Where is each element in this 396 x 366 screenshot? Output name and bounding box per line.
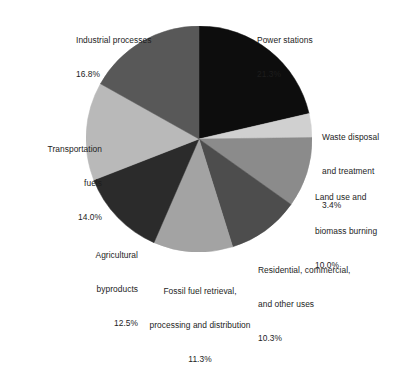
slice-label-percent: 14.0%	[6, 212, 102, 223]
slice-label-percent: 11.3%	[121, 354, 279, 365]
slice-label-agricultural-byproducts: Agricultural byproducts 12.5%	[30, 228, 138, 351]
slice-label-name-line1: Land use and	[315, 192, 396, 203]
slice-label-percent: 21.3%	[257, 69, 387, 80]
slice-label-percent: 12.5%	[30, 318, 138, 329]
slice-label-transportation-fuels: Transportation fuels 14.0%	[6, 122, 102, 245]
slice-label-name-line1: Waste disposal	[322, 132, 396, 143]
slice-label-name-line2: processing and distribution	[121, 320, 279, 331]
slice-label-percent: 16.8%	[76, 69, 216, 80]
slice-label-name: Industrial processes	[76, 35, 216, 46]
slice-label-name-line2: byproducts	[30, 284, 138, 295]
slice-label-fossil-fuel: Fossil fuel retrieval, processing and di…	[121, 264, 279, 366]
slice-label-name-line1: Agricultural	[30, 250, 138, 261]
slice-label-name-line2: biomass burning	[315, 226, 396, 237]
slice-label-power-stations: Power stations 21.3%	[257, 13, 387, 103]
slice-label-industrial-processes: Industrial processes 16.8%	[76, 13, 216, 103]
slice-label-name-line2: fuels	[6, 178, 102, 189]
slice-label-name-line1: Transportation	[6, 144, 102, 155]
slice-label-name: Power stations	[257, 35, 387, 46]
slice-label-name-line1: Fossil fuel retrieval,	[121, 286, 279, 297]
